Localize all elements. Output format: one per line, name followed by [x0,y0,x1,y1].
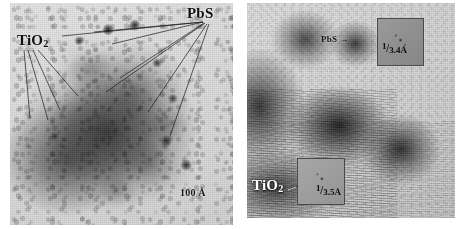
inset-tio2-dspacing-label: 1/3.5Å [316,182,341,195]
label-tio2-left-text: TiO [17,32,43,48]
figure-tem-micrographs: TiO2 PbS 100 Å PbS→ TiO2 1/3.4Å 1/3.5Å [0,0,468,229]
label-tio2-right-subscript: 2 [278,183,283,194]
label-tio2-right: TiO2 [252,178,283,194]
inset-pbs-dspacing-label: 1/3.4Å [382,40,407,53]
label-tio2-left: TiO2 [17,33,48,49]
label-pbs-left: PbS [187,6,213,21]
label-tio2-right-text: TiO [252,177,278,193]
scale-bar-label: 100 Å [180,188,206,198]
label-tio2-left-subscript: 2 [43,38,48,49]
label-pbs-right: PbS→ [321,35,349,44]
arrow-right-icon: → [337,34,349,44]
inset-tio2-denominator: 3.5Å [323,188,341,197]
inset-pbs-denominator: 3.4Å [389,46,407,55]
label-pbs-right-text: PbS [321,34,337,44]
